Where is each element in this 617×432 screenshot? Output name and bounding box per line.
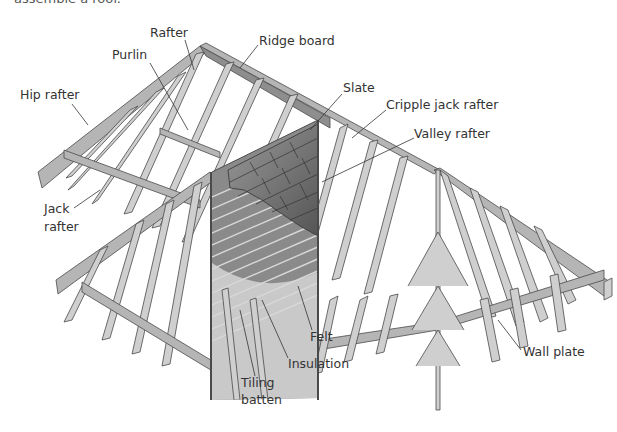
front-roof-frame: [56, 170, 604, 410]
label-rafter: Rafter: [150, 25, 189, 40]
label-valley-rafter: Valley rafter: [414, 126, 491, 141]
label-jack-rafter-1: Jack: [43, 201, 70, 216]
label-tiling-batten-2: batten: [241, 392, 282, 407]
label-insulation: Insulation: [288, 356, 349, 371]
label-felt: Felt: [310, 329, 333, 344]
label-ridge-board: Ridge board: [259, 33, 335, 48]
label-purlin: Purlin: [112, 47, 147, 62]
roof-diagram: Rafter Purlin Ridge board Hip rafter Sla…: [0, 0, 617, 432]
label-cripple-jack-rafter: Cripple jack rafter: [386, 97, 499, 112]
label-hip-rafter: Hip rafter: [20, 87, 80, 102]
label-wall-plate: Wall plate: [523, 344, 585, 359]
label-tiling-batten-1: Tiling: [240, 375, 275, 390]
label-slate: Slate: [343, 80, 375, 95]
label-jack-rafter-2: rafter: [44, 219, 80, 234]
